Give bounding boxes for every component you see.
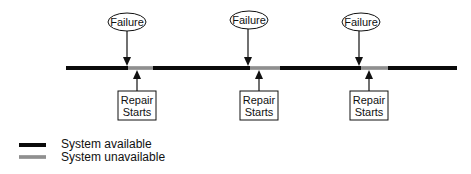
legend-swatch-unavailable	[19, 155, 46, 159]
repair-event-1: Repair Starts	[118, 70, 156, 120]
legend-label-unavailable: System unavailable	[61, 150, 165, 164]
failure-event-2: Failure	[230, 11, 268, 66]
repair-label-line2: Starts	[245, 106, 274, 118]
unavailable-segment-2	[250, 66, 280, 70]
repair-event-3: Repair Starts	[350, 70, 388, 120]
legend-label-available: System available	[61, 137, 152, 151]
repair-label-line2: Starts	[355, 106, 384, 118]
failure-event-1: Failure	[108, 13, 146, 66]
failure-label: Failure	[110, 16, 144, 28]
repair-label-line1: Repair	[243, 94, 276, 106]
unavailable-segment-1	[128, 66, 153, 70]
unavailable-segment-3	[361, 66, 388, 70]
repair-label-line1: Repair	[353, 94, 386, 106]
failure-event-3: Failure	[342, 13, 380, 66]
failure-label: Failure	[344, 16, 378, 28]
repair-label-line2: Starts	[123, 106, 152, 118]
repair-label-line1: Repair	[121, 94, 154, 106]
failure-label: Failure	[232, 14, 266, 26]
legend-swatch-available	[19, 143, 46, 147]
repair-event-2: Repair Starts	[240, 70, 278, 120]
